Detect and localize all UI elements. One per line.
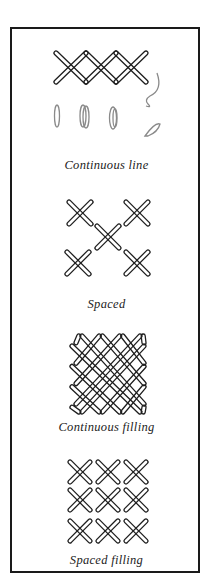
line-stitch-up	[114, 51, 148, 84]
spaced-fill-cross-7-over	[68, 519, 92, 543]
spaced-fill-cross-1-under	[68, 460, 92, 484]
line-stitch-up	[84, 51, 118, 84]
spaced-fill-cross-1-over	[68, 460, 92, 484]
spaced-fill-cross-4-under	[68, 488, 92, 512]
spaced-fill-cross-2-under	[96, 460, 120, 484]
spaced-cross-2-under	[124, 200, 150, 226]
spaced-fill-cross-5-over	[96, 488, 120, 512]
caption-spaced: Spaced	[0, 297, 213, 312]
caption-spaced-filling: Spaced filling	[0, 553, 213, 568]
spaced-fill-cross-9-over	[124, 519, 148, 543]
spaced-filling-stitches	[68, 460, 148, 543]
fill-stitch-diag	[70, 405, 81, 414]
spaced-cross-3-under	[95, 224, 121, 250]
line-stitch-down	[54, 51, 88, 84]
caption-continuous-filling: Continuous filling	[0, 420, 213, 435]
spaced-cross-5-under	[124, 250, 150, 276]
needle-icon	[145, 124, 160, 136]
spaced-fill-cross-5-under	[96, 488, 120, 512]
spaced-cross-1-under	[67, 200, 93, 226]
spaced-fill-cross-4-over	[68, 488, 92, 512]
line-stitch-down	[114, 51, 148, 84]
spaced-fill-cross-3-under	[124, 460, 148, 484]
stitch-illustrations	[0, 0, 213, 588]
spaced-cross-5-over	[124, 250, 150, 276]
thread-loop-1	[55, 105, 60, 127]
spaced-fill-cross-6-under	[124, 488, 148, 512]
spaced-fill-cross-3-over	[124, 460, 148, 484]
spaced-cross-1-over	[67, 200, 93, 226]
line-stitch-down	[84, 51, 118, 84]
spaced-cross-4-under	[65, 250, 91, 276]
spaced-cross-3-over	[95, 224, 121, 250]
spaced-fill-cross-8-under	[96, 519, 120, 543]
spaced-fill-cross-2-over	[96, 460, 120, 484]
continuous-line-stitches	[54, 51, 148, 84]
thread-loop-3b	[113, 109, 117, 127]
thread-curl-icon	[146, 73, 159, 107]
spaced-fill-cross-7-under	[68, 519, 92, 543]
continuous-filling-stitches	[70, 334, 146, 414]
line-stitch-up	[54, 51, 88, 84]
spaced-cross-4-over	[65, 250, 91, 276]
spaced-cross-2-over	[124, 200, 150, 226]
caption-continuous-line: Continuous line	[0, 158, 213, 173]
spaced-stitches	[65, 200, 150, 276]
spaced-fill-cross-8-over	[96, 519, 120, 543]
spaced-fill-cross-6-over	[124, 488, 148, 512]
spaced-fill-cross-9-under	[124, 519, 148, 543]
